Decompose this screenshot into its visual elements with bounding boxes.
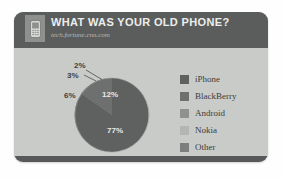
data-label-other: 2% bbox=[74, 61, 86, 70]
header-text-block: WHAT WAS YOUR OLD PHONE? tech.fortune.cn… bbox=[51, 15, 264, 40]
data-label-iphone: 77% bbox=[107, 126, 123, 135]
legend-item-nokia[interactable]: Nokia bbox=[180, 123, 264, 137]
mobile-phone-icon bbox=[25, 15, 45, 42]
legend-swatch-blackberry bbox=[180, 92, 189, 101]
infographic-card: WHAT WAS YOUR OLD PHONE? tech.fortune.cn… bbox=[14, 12, 268, 162]
source-url: tech.fortune.cnn.com bbox=[51, 30, 264, 40]
card-footer-bar bbox=[14, 156, 268, 162]
legend-swatch-iphone bbox=[180, 75, 189, 84]
screenshot-canvas: WHAT WAS YOUR OLD PHONE? tech.fortune.cn… bbox=[0, 0, 284, 180]
legend-item-iphone[interactable]: iPhone bbox=[180, 72, 264, 86]
legend-label-iphone: iPhone bbox=[195, 74, 220, 84]
data-label-android: 6% bbox=[64, 91, 76, 100]
legend-label-other: Other bbox=[195, 142, 216, 152]
legend-item-blackberry[interactable]: BlackBerry bbox=[180, 89, 264, 103]
legend-swatch-android bbox=[180, 109, 189, 118]
legend-label-nokia: Nokia bbox=[195, 125, 217, 135]
leader-line-other bbox=[86, 70, 102, 80]
legend-item-android[interactable]: Android bbox=[180, 106, 264, 120]
card-header: WHAT WAS YOUR OLD PHONE? tech.fortune.cn… bbox=[14, 12, 268, 48]
legend-label-android: Android bbox=[195, 108, 225, 118]
legend-swatch-nokia bbox=[180, 126, 189, 135]
data-label-blackberry: 12% bbox=[102, 90, 118, 99]
legend-label-blackberry: BlackBerry bbox=[195, 91, 236, 101]
page-title: WHAT WAS YOUR OLD PHONE? bbox=[51, 15, 264, 29]
legend-swatch-other bbox=[180, 143, 189, 152]
card-body: 12% 77% 6% 3% 2% iPhone BlackBerry bbox=[14, 48, 268, 156]
legend-item-other[interactable]: Other bbox=[180, 140, 264, 154]
data-label-nokia: 3% bbox=[67, 71, 79, 80]
leader-line-nokia bbox=[84, 75, 96, 81]
chart-legend: iPhone BlackBerry Android Nokia Other bbox=[180, 72, 264, 157]
pie-chart: 12% 77% 6% 3% 2% bbox=[24, 48, 169, 156]
